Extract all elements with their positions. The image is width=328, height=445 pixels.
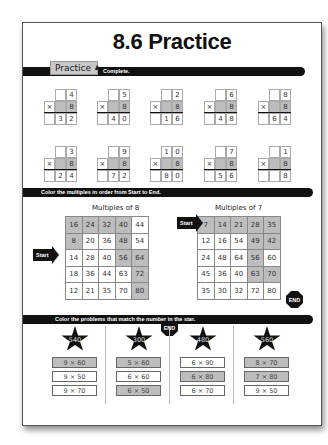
ones-digit: 7	[226, 146, 237, 158]
problem-box[interactable]: 7 × 80	[244, 371, 289, 382]
answer-tens[interactable]: 5	[215, 170, 226, 182]
grid-cell[interactable]: 36	[99, 233, 116, 250]
instruction-complete: Complete.	[103, 68, 130, 74]
ones-digit: 6	[226, 89, 237, 101]
grid-cell[interactable]: 35	[99, 283, 116, 300]
answer-ones[interactable]: 6	[226, 170, 237, 182]
problem-box[interactable]: 6 × 50	[116, 385, 161, 396]
answer-ones[interactable]: 2	[66, 113, 77, 125]
answer-tens[interactable]	[269, 170, 280, 182]
grid-cell[interactable]: 70	[115, 283, 132, 300]
answer-ones[interactable]: 0	[119, 113, 130, 125]
grid-cell[interactable]: 56	[247, 250, 264, 267]
answer-ones[interactable]: 8	[280, 170, 291, 182]
multiplication-problem: 5×840	[97, 89, 130, 125]
grid-cell[interactable]: 36	[82, 266, 99, 283]
grid-cell[interactable]: 40	[99, 250, 116, 267]
grid-cell[interactable]: 54	[231, 233, 248, 250]
answer-tens[interactable]: 1	[161, 113, 172, 125]
grid-cell[interactable]: 35	[264, 217, 281, 234]
multiplication-problem: 2×816	[150, 89, 183, 125]
answer-ones[interactable]: 8	[226, 113, 237, 125]
problem-box[interactable]: 6 × 60	[116, 371, 161, 382]
grid-cell[interactable]: 14	[214, 217, 231, 234]
grid-cell[interactable]: 63	[115, 266, 132, 283]
grid-cell[interactable]: 35	[198, 283, 215, 300]
answer-ones[interactable]: 4	[280, 113, 291, 125]
grid-cell[interactable]: 72	[132, 266, 149, 283]
answer-ones[interactable]: 0	[172, 170, 183, 182]
grid-cell[interactable]: 45	[198, 266, 215, 283]
grid-cell[interactable]: 60	[264, 250, 281, 267]
answer-ones[interactable]: 4	[66, 170, 77, 182]
grid-cell[interactable]: 72	[247, 283, 264, 300]
grid-cell[interactable]: 49	[247, 233, 264, 250]
tens-digit	[269, 89, 280, 101]
grid-cell[interactable]: 30	[214, 283, 231, 300]
problem-box[interactable]: 6 × 80	[180, 371, 225, 382]
grid-cell[interactable]: 40	[231, 266, 248, 283]
blank-cell	[150, 113, 161, 125]
answer-tens[interactable]: 3	[55, 113, 66, 125]
grid-cell[interactable]: 48	[214, 250, 231, 267]
grid-cell[interactable]: 21	[231, 217, 248, 234]
grid-cell[interactable]: 32	[231, 283, 248, 300]
multiplication-problem: 10×880	[150, 146, 183, 182]
problem-box[interactable]: 6 × 90	[180, 357, 225, 368]
grid-cell[interactable]: 24	[82, 217, 99, 234]
grid-cell[interactable]: 28	[82, 250, 99, 267]
grid-cell[interactable]: 16	[66, 217, 83, 234]
grid-cell[interactable]: 54	[132, 233, 149, 250]
answer-tens[interactable]: 8	[161, 170, 172, 182]
grid-cell[interactable]: 40	[115, 217, 132, 234]
grid-cell[interactable]: 16	[214, 233, 231, 250]
grid-cell[interactable]: 64	[231, 250, 248, 267]
grid-cell[interactable]: 14	[66, 250, 83, 267]
answer-ones[interactable]: 6	[172, 113, 183, 125]
grid-cell[interactable]: 44	[99, 266, 116, 283]
grid-cell[interactable]: 28	[247, 217, 264, 234]
problem-box[interactable]: 9 × 70	[52, 385, 97, 396]
grid-cell[interactable]: 36	[214, 266, 231, 283]
answer-tens[interactable]: 4	[215, 113, 226, 125]
answer-tens[interactable]: 7	[108, 170, 119, 182]
problem-box[interactable]: 9 × 60	[52, 357, 97, 368]
grid-cell[interactable]: 42	[264, 233, 281, 250]
grid-cell[interactable]: 44	[132, 217, 149, 234]
grid-multiples-8: 1624324044820364854142840566418364463721…	[65, 216, 149, 300]
answer-tens[interactable]: 6	[269, 113, 280, 125]
problem-box[interactable]: 8 × 70	[244, 357, 289, 368]
grid-cell[interactable]: 18	[66, 266, 83, 283]
practice-tab: Practice ♟	[50, 61, 98, 75]
answer-ones[interactable]: 2	[119, 170, 130, 182]
grid-cell[interactable]: 12	[66, 283, 83, 300]
grid-cell[interactable]: 8	[66, 233, 83, 250]
end-stop-7: END	[286, 291, 303, 308]
blank-cell	[258, 113, 269, 125]
grid-cell[interactable]: 21	[82, 283, 99, 300]
grid-cell[interactable]: 12	[198, 233, 215, 250]
ones-digit: 8	[280, 89, 291, 101]
ones-digit: 4	[66, 89, 77, 101]
star-column: 4806 × 906 × 806 × 70	[171, 326, 234, 404]
grid-cell[interactable]: 70	[264, 266, 281, 283]
problem-box[interactable]: 5 × 60	[116, 357, 161, 368]
section-bar-stars: Color the problems that match the number…	[23, 315, 313, 324]
grid-cell[interactable]: 80	[132, 283, 149, 300]
problem-box[interactable]: 9 × 50	[52, 371, 97, 382]
grid-cell[interactable]: 48	[115, 233, 132, 250]
person-icon: ♟	[94, 64, 100, 72]
grid-cell[interactable]: 20	[82, 233, 99, 250]
grid-cell[interactable]: 56	[115, 250, 132, 267]
grid-cell[interactable]: 32	[99, 217, 116, 234]
answer-tens[interactable]: 2	[55, 170, 66, 182]
multiplication-problem: 8×864	[258, 89, 291, 125]
grid-cell[interactable]: 63	[247, 266, 264, 283]
multiplication-problem: 6×848	[204, 89, 237, 125]
grid-cell[interactable]: 64	[132, 250, 149, 267]
answer-tens[interactable]: 4	[108, 113, 119, 125]
grid-cell[interactable]: 80	[264, 283, 281, 300]
problem-box[interactable]: 6 × 70	[180, 385, 225, 396]
grid-cell[interactable]: 24	[198, 250, 215, 267]
problem-box[interactable]: 9 × 50	[244, 385, 289, 396]
